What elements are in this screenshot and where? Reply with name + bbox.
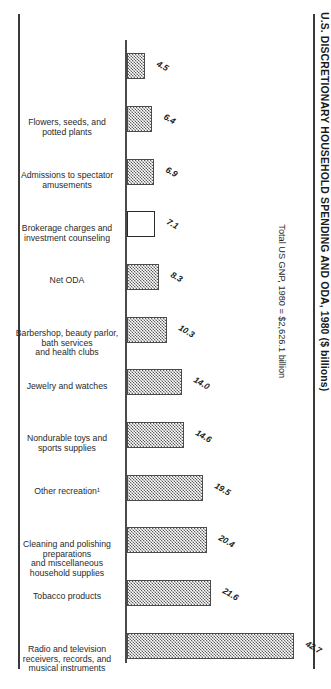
bar[interactable] <box>127 422 184 448</box>
bar-value-label: 6.9 <box>164 164 179 179</box>
bar[interactable] <box>127 580 211 606</box>
category-label: Flowers, seeds, and potted plants <box>15 118 119 137</box>
bar[interactable] <box>127 369 182 395</box>
bar-value-label: 20.4 <box>217 533 236 550</box>
bar-value-label: 14.0 <box>192 375 211 392</box>
category-label: Jewelry and watches <box>15 382 119 392</box>
category-label: Other recreation¹ <box>15 487 119 497</box>
category-label: Admissions to spectator amusements <box>15 171 119 190</box>
bar-value-label: 21.6 <box>221 585 240 602</box>
category-label: Radio and television receivers, records,… <box>15 645 119 674</box>
category-label: Barbershop, beauty parlor, bath services… <box>15 329 119 358</box>
bar[interactable] <box>127 53 145 79</box>
chart-title: U.S. DISCRETIONARY HOUSEHOLD SPENDING AN… <box>319 12 330 672</box>
category-label: Brokerage charges and investment counsel… <box>15 224 119 243</box>
category-label: Net ODA <box>15 276 119 286</box>
rotated-page-wrapper: U.S. DISCRETIONARY HOUSEHOLD SPENDING AN… <box>0 0 331 689</box>
category-axis-baseline <box>125 40 127 663</box>
bar-value-label: 4.5 <box>155 59 170 74</box>
bar-value-label: 19.5 <box>213 480 232 497</box>
bar[interactable] <box>127 317 167 343</box>
bar-value-label: 10.3 <box>177 322 196 339</box>
bar-value-label: 7.1 <box>165 217 180 232</box>
category-label: Cleaning and polishing preparations and … <box>15 540 119 578</box>
bar[interactable] <box>127 527 207 553</box>
bar-value-label: 14.6 <box>194 427 213 444</box>
plot-area: 4.56.46.97.18.310.314.014.619.520.421.64… <box>127 40 303 672</box>
category-label: Nondurable toys and sports supplies <box>15 434 119 453</box>
category-label: Tobacco products <box>15 592 119 602</box>
chart-figure: U.S. DISCRETIONARY HOUSEHOLD SPENDING AN… <box>0 0 331 689</box>
bar-value-label: 8.3 <box>169 269 184 284</box>
bar[interactable] <box>127 264 159 290</box>
frame-rule-top <box>313 14 315 669</box>
bar[interactable] <box>127 475 203 501</box>
bar[interactable] <box>127 106 152 132</box>
bar[interactable] <box>127 211 155 237</box>
bar[interactable] <box>127 633 294 659</box>
bar[interactable] <box>127 159 154 185</box>
bar-value-label: 6.4 <box>162 111 177 126</box>
